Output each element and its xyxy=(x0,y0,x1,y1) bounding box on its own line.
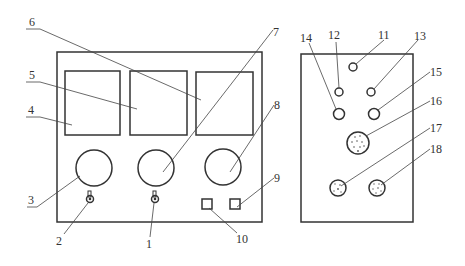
label-16: 16 xyxy=(430,94,442,108)
callout-labels: 6 5 4 3 2 1 7 8 9 10 14 12 11 13 15 16 1… xyxy=(28,15,442,251)
label-11: 11 xyxy=(378,28,390,42)
label-12: 12 xyxy=(328,28,340,42)
button-10 xyxy=(202,199,212,209)
front-panel xyxy=(57,52,262,222)
diagram-canvas: 6 5 4 3 2 1 7 8 9 10 14 12 11 13 15 16 1… xyxy=(0,0,465,266)
button-9 xyxy=(230,199,240,209)
label-6: 6 xyxy=(29,15,35,29)
label-1: 1 xyxy=(146,237,152,251)
hole-12 xyxy=(335,88,343,96)
display-5 xyxy=(130,71,187,135)
label-2: 2 xyxy=(56,234,62,248)
hole-14 xyxy=(334,109,345,120)
label-15: 15 xyxy=(430,65,442,79)
label-14: 14 xyxy=(300,31,312,45)
rear-panel-outline xyxy=(301,54,413,222)
label-10: 10 xyxy=(236,232,248,246)
dial-3 xyxy=(76,150,112,186)
knob-2 xyxy=(87,191,94,203)
label-8: 8 xyxy=(274,98,280,112)
label-3: 3 xyxy=(28,193,34,207)
display-4 xyxy=(65,71,120,135)
display-6 xyxy=(196,72,253,135)
hole-11 xyxy=(349,63,357,71)
label-13: 13 xyxy=(414,29,426,43)
connector-17 xyxy=(330,180,346,196)
knob-1 xyxy=(152,191,159,203)
hole-13 xyxy=(367,88,375,96)
label-4: 4 xyxy=(28,103,34,117)
connector-16 xyxy=(347,132,369,154)
label-9: 9 xyxy=(274,171,280,185)
label-7: 7 xyxy=(273,25,279,39)
label-5: 5 xyxy=(29,68,35,82)
rear-panel xyxy=(301,54,413,222)
hole-15 xyxy=(369,109,380,120)
dial-7 xyxy=(138,150,174,186)
label-17: 17 xyxy=(430,121,442,135)
dial-8 xyxy=(205,149,241,185)
connector-18 xyxy=(369,180,385,196)
leader-lines xyxy=(26,29,430,237)
label-18: 18 xyxy=(430,142,442,156)
